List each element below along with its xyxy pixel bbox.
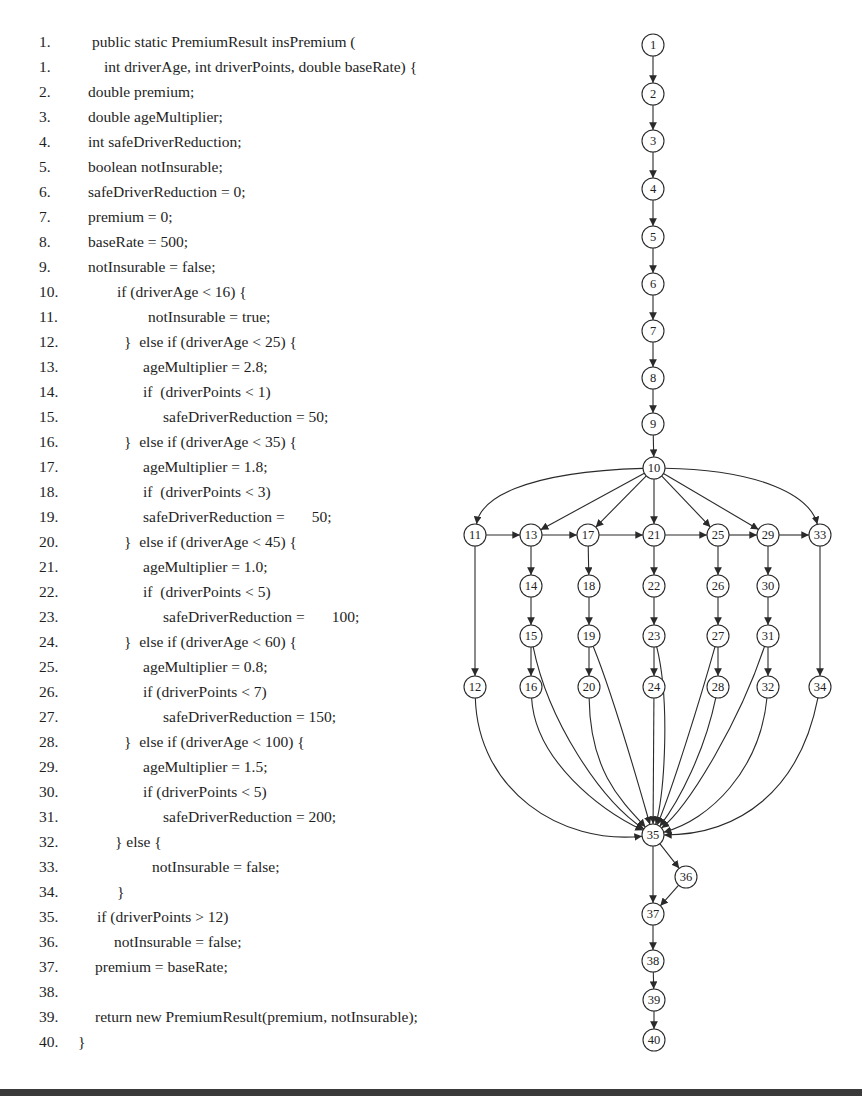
edge-27-to-35 — [657, 647, 715, 825]
edge-10-to-25 — [662, 476, 711, 527]
node-label: 10 — [648, 461, 661, 475]
node-label: 29 — [762, 528, 775, 542]
node-label: 40 — [648, 1033, 661, 1047]
node-label: 12 — [469, 680, 482, 694]
graph-node-3: 3 — [642, 130, 664, 152]
node-label: 20 — [583, 680, 596, 694]
graph-nodes: 1234567891011131721252933141822263015192… — [464, 34, 831, 1051]
graph-node-25: 25 — [707, 524, 729, 546]
graph-node-37: 37 — [642, 903, 664, 925]
node-label: 9 — [650, 417, 656, 431]
graph-node-15: 15 — [520, 625, 542, 647]
graph-node-26: 26 — [707, 575, 729, 597]
graph-node-10: 10 — [643, 457, 665, 479]
node-label: 3 — [650, 134, 656, 148]
node-label: 33 — [814, 528, 827, 542]
node-label: 32 — [762, 680, 775, 694]
node-label: 22 — [648, 579, 661, 593]
edge-17-to-18 — [588, 546, 589, 575]
node-label: 34 — [814, 680, 827, 694]
node-label: 8 — [650, 371, 656, 385]
edge-34-to-35 — [664, 698, 818, 835]
graph-node-20: 20 — [578, 676, 600, 698]
node-label: 30 — [762, 579, 775, 593]
graph-node-14: 14 — [520, 575, 542, 597]
node-label: 17 — [582, 528, 595, 542]
node-label: 13 — [525, 528, 538, 542]
graph-node-40: 40 — [643, 1029, 665, 1051]
edge-10-to-17 — [596, 476, 647, 527]
graph-node-22: 22 — [643, 575, 665, 597]
node-label: 31 — [762, 629, 775, 643]
edge-10-to-33 — [665, 468, 817, 524]
node-label: 16 — [525, 680, 538, 694]
graph-node-38: 38 — [642, 950, 664, 972]
edge-28-to-35 — [660, 698, 716, 827]
node-label: 11 — [469, 528, 481, 542]
graph-node-16: 16 — [520, 676, 542, 698]
node-label: 23 — [648, 629, 661, 643]
graph-node-12: 12 — [464, 676, 486, 698]
node-label: 7 — [650, 324, 656, 338]
graph-node-18: 18 — [578, 575, 600, 597]
node-label: 36 — [680, 870, 693, 884]
edge-10-to-29 — [663, 474, 758, 530]
graph-node-2: 2 — [642, 83, 664, 105]
node-label: 2 — [650, 87, 656, 101]
edge-20-to-35 — [589, 698, 645, 827]
graph-node-17: 17 — [577, 524, 599, 546]
node-label: 25 — [712, 528, 725, 542]
graph-node-8: 8 — [642, 367, 664, 389]
graph-node-9: 9 — [642, 413, 664, 435]
edge-23-to-35 — [656, 647, 665, 825]
node-label: 14 — [525, 579, 538, 593]
graph-node-23: 23 — [643, 625, 665, 647]
graph-node-11: 11 — [464, 524, 486, 546]
node-label: 26 — [712, 579, 725, 593]
graph-node-21: 21 — [643, 524, 665, 546]
node-label: 35 — [647, 828, 660, 842]
graph-node-33: 33 — [809, 524, 831, 546]
graph-node-19: 19 — [578, 625, 600, 647]
node-label: 28 — [712, 680, 725, 694]
graph-node-30: 30 — [757, 575, 779, 597]
graph-node-32: 32 — [757, 676, 779, 698]
node-label: 15 — [525, 629, 538, 643]
edge-16-to-35 — [532, 698, 643, 830]
graph-node-29: 29 — [757, 524, 779, 546]
graph-node-36: 36 — [675, 866, 697, 888]
edge-10-to-13 — [541, 473, 645, 529]
node-label: 1 — [650, 38, 656, 52]
node-label: 24 — [648, 680, 661, 694]
graph-node-31: 31 — [757, 625, 779, 647]
bottom-divider-bar — [0, 1089, 862, 1096]
node-label: 21 — [648, 528, 661, 542]
graph-node-13: 13 — [520, 524, 542, 546]
edge-10-to-11 — [477, 468, 643, 524]
node-label: 4 — [650, 182, 657, 196]
node-label: 37 — [647, 907, 660, 921]
node-label: 27 — [712, 629, 725, 643]
graph-node-5: 5 — [642, 226, 664, 248]
graph-node-39: 39 — [643, 989, 665, 1011]
graph-node-24: 24 — [643, 676, 665, 698]
graph-node-28: 28 — [707, 676, 729, 698]
graph-node-6: 6 — [642, 273, 664, 295]
node-label: 18 — [583, 579, 596, 593]
graph-node-34: 34 — [809, 676, 831, 698]
edge-36-to-37 — [660, 885, 678, 906]
graph-node-27: 27 — [707, 625, 729, 647]
graph-node-7: 7 — [642, 320, 664, 342]
node-label: 39 — [648, 993, 661, 1007]
node-label: 6 — [650, 277, 656, 291]
node-label: 38 — [647, 954, 660, 968]
graph-node-1: 1 — [642, 34, 664, 56]
graph-node-4: 4 — [642, 178, 664, 200]
graph-node-35: 35 — [642, 824, 664, 846]
control-flow-graph: 1234567891011131721252933141822263015192… — [0, 0, 862, 1112]
node-label: 5 — [650, 230, 656, 244]
edge-9-to-10 — [653, 435, 654, 457]
edge-24-to-35 — [653, 698, 654, 824]
edge-35-to-36 — [660, 844, 679, 869]
node-label: 19 — [583, 629, 596, 643]
